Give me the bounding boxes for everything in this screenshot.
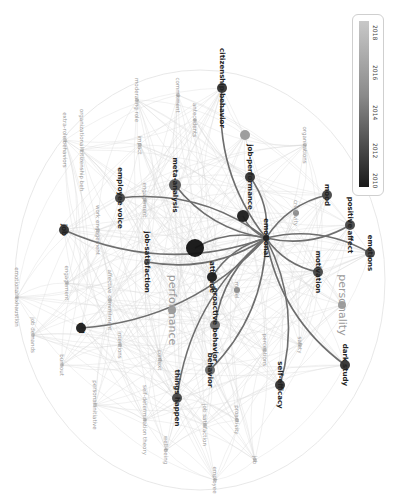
node-label: behavior xyxy=(206,353,214,388)
node-label: affective commitment xyxy=(107,270,113,332)
node-label: safety xyxy=(296,337,303,355)
node-label: job-satisfaction xyxy=(143,230,151,292)
node-burnout[interactable]: burnout xyxy=(59,354,65,376)
node-label: positive affect xyxy=(346,197,354,254)
node-label: personality xyxy=(336,274,349,336)
node-job-bottom[interactable]: job xyxy=(251,455,258,465)
node-engagement-left[interactable]: engagement xyxy=(63,266,70,302)
legend-tick: 2014 xyxy=(372,105,379,120)
node-label: context xyxy=(157,350,163,372)
node-job-demands[interactable]: job demands xyxy=(29,316,36,353)
node-motivation[interactable]: motivation xyxy=(313,251,323,294)
node-moderating-role[interactable]: moderating role xyxy=(133,78,140,123)
node-mood[interactable]: mood xyxy=(322,184,332,206)
node-job[interactable]: job xyxy=(59,223,69,236)
node-self-determination-theory[interactable]: self-determination theory xyxy=(141,385,148,456)
node-impact[interactable]: impact xyxy=(136,136,143,156)
node-context[interactable]: context xyxy=(157,350,163,372)
node-organizational-citizenship-beh[interactable]: organizational citizenship beh xyxy=(78,109,85,192)
node-affective-commitment[interactable]: affective commitment xyxy=(107,270,113,332)
node-label: emotions xyxy=(366,235,374,272)
node-personality[interactable]: personality xyxy=(336,274,349,336)
year-color-legend: 2018 2016 2014 2012 2010 xyxy=(352,14,384,196)
node-label: meta-analysis xyxy=(171,157,179,212)
node-job-satisfaction-2[interactable]: job satisfaction xyxy=(201,403,208,446)
node-label: mood xyxy=(323,184,331,206)
node-performance[interactable]: performance xyxy=(166,275,179,346)
node-label: commitment xyxy=(175,77,181,113)
node-label: motivation xyxy=(314,251,322,294)
legend-gradient-bar xyxy=(359,21,369,187)
node-label: employee xyxy=(211,466,218,494)
node-label: dark study xyxy=(341,344,349,387)
node-proactivity[interactable]: proactivity xyxy=(233,405,240,435)
node-proactive-behavior[interactable]: proactive behavior xyxy=(210,288,220,363)
node-label: model xyxy=(234,281,240,299)
node-label: citizenship behavior xyxy=(218,48,226,128)
legend-tick: 2012 xyxy=(372,143,379,158)
node-engagement-top[interactable]: engagement xyxy=(141,183,148,219)
node-label: job-performance xyxy=(246,143,254,210)
node-label: engagement xyxy=(63,266,70,302)
node-antecedents[interactable]: antecedents xyxy=(192,103,198,137)
node-circle[interactable] xyxy=(186,239,204,257)
node-commitment[interactable]: commitment xyxy=(175,77,181,113)
node-work-engagement[interactable]: work engagement xyxy=(94,205,101,256)
node-label: extra-role behaviors xyxy=(62,112,68,168)
node-label: organizations xyxy=(301,126,308,163)
node-positive-affect[interactable]: positive affect xyxy=(345,197,355,254)
node-employee[interactable]: employee xyxy=(211,466,218,494)
node-things-happen[interactable]: things happen xyxy=(172,370,182,427)
node-citizenship-behavior[interactable]: citizenship behavior xyxy=(217,48,227,128)
node-label: self-determination theory xyxy=(141,385,148,456)
node-dark-study[interactable]: dark study xyxy=(340,344,350,387)
node-label: things happen xyxy=(173,370,181,427)
node-label: creativity xyxy=(292,200,299,227)
node-big-dark[interactable] xyxy=(186,239,204,257)
node-meta-analysis[interactable]: meta-analysis xyxy=(169,157,181,212)
node-label: engagement xyxy=(141,183,148,219)
node-circle[interactable] xyxy=(237,210,249,222)
node-creativity[interactable]: creativity xyxy=(292,200,299,227)
node-node-dark-1[interactable] xyxy=(237,210,249,222)
node-label: organizational citizenship beh xyxy=(78,109,85,192)
legend-tick: 2010 xyxy=(372,173,379,188)
node-label: personal initiative xyxy=(91,380,98,430)
node-label: proactivity xyxy=(233,405,240,435)
node-node-grey-top[interactable] xyxy=(240,130,250,140)
node-intentions[interactable]: intentions xyxy=(117,331,123,359)
node-label: antecedents xyxy=(192,103,198,137)
node-label: performance xyxy=(166,275,179,346)
node-extra-role-behaviors[interactable]: extra-role behaviors xyxy=(62,112,68,168)
network-canvas[interactable]: citizenship behaviorcommitmentmoderating… xyxy=(0,0,393,504)
node-label: job xyxy=(251,455,258,465)
node-circle[interactable] xyxy=(240,130,250,140)
node-ucl[interactable]: ucl xyxy=(76,322,86,334)
node-label: job demands xyxy=(29,316,36,353)
node-label: ucl xyxy=(77,322,85,334)
node-employee-voice[interactable]: employee voice xyxy=(115,167,125,229)
node-label: impact xyxy=(136,136,143,156)
node-label: job xyxy=(60,223,68,236)
node-label: work engagement xyxy=(94,205,101,256)
node-label: proactive behavior xyxy=(211,288,219,363)
node-label: emotional exhaustion xyxy=(14,267,20,327)
node-well-being[interactable]: well-being xyxy=(162,436,169,464)
legend-tick: 2018 xyxy=(372,25,379,40)
node-emotional-exhaustion[interactable]: emotional exhaustion xyxy=(14,267,20,327)
node-job-performance[interactable]: job-performance xyxy=(245,143,255,210)
node-organizations[interactable]: organizations xyxy=(301,126,308,163)
node-personal-initiative[interactable]: personal initiative xyxy=(91,380,98,430)
node-label: employee voice xyxy=(116,167,124,229)
node-self-efficacy[interactable]: self-efficacy xyxy=(275,361,285,409)
node-emotions[interactable]: emotions xyxy=(365,235,375,272)
node-safety[interactable]: safety xyxy=(296,337,303,355)
node-behavior[interactable]: behavior xyxy=(205,353,215,388)
node-label: moderating role xyxy=(133,78,140,123)
node-perceptions[interactable]: perceptions xyxy=(261,334,268,366)
node-model[interactable]: model xyxy=(234,281,240,299)
node-label: well-being xyxy=(162,436,169,464)
node-label: job satisfaction xyxy=(201,403,208,446)
node-center-hub[interactable]: emotional xyxy=(262,218,270,258)
node-job-satisfaction[interactable]: job-satisfaction xyxy=(143,230,151,292)
